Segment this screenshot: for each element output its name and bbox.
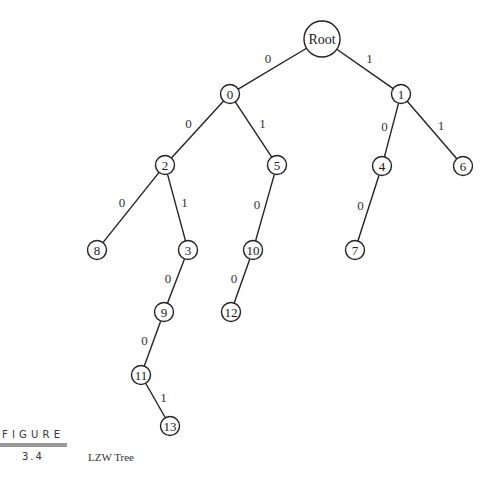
node-label: 8 bbox=[94, 243, 101, 258]
lzw-tree-diagram: 01010101000001 Root012546831079121113 bbox=[0, 0, 500, 481]
tree-edge bbox=[337, 49, 393, 88]
tree-edge bbox=[238, 48, 306, 89]
tree-node: 10 bbox=[244, 241, 263, 260]
node-label: 1 bbox=[398, 87, 405, 102]
node-label: 11 bbox=[135, 368, 148, 383]
node-label: Root bbox=[308, 32, 335, 47]
edge-bit-label: 0 bbox=[357, 198, 364, 213]
tree-node: 13 bbox=[161, 417, 180, 436]
edge-bit-label: 0 bbox=[265, 51, 272, 66]
node-label: 12 bbox=[225, 305, 238, 320]
tree-edge-labels: 01010101000001 bbox=[119, 51, 445, 405]
tree-node: 0 bbox=[221, 85, 240, 104]
node-label: 0 bbox=[227, 87, 234, 102]
node-label: 10 bbox=[247, 243, 260, 258]
tree-node: 12 bbox=[222, 303, 241, 322]
tree-root-node: Root bbox=[304, 21, 340, 57]
tree-edge bbox=[103, 172, 159, 242]
figure-number: 3.4 bbox=[22, 451, 44, 462]
edge-bit-label: 1 bbox=[438, 118, 445, 133]
tree-node: 7 bbox=[346, 241, 365, 260]
edge-bit-label: 0 bbox=[381, 119, 388, 134]
edge-bit-label: 0 bbox=[119, 195, 126, 210]
node-label: 13 bbox=[164, 419, 177, 434]
tree-node: 9 bbox=[155, 303, 174, 322]
tree-node: 3 bbox=[179, 241, 198, 260]
tree-node: 1 bbox=[392, 85, 411, 104]
node-label: 3 bbox=[185, 243, 192, 258]
tree-edge bbox=[235, 102, 272, 157]
node-label: 9 bbox=[161, 305, 168, 320]
edge-bit-label: 0 bbox=[165, 271, 172, 286]
edge-bit-label: 1 bbox=[259, 116, 266, 131]
edge-bit-label: 0 bbox=[254, 197, 261, 212]
tree-edge bbox=[407, 101, 457, 159]
edge-bit-label: 1 bbox=[160, 390, 167, 405]
tree-node: 6 bbox=[454, 157, 473, 176]
tree-node: 2 bbox=[156, 156, 175, 175]
node-label: 4 bbox=[379, 159, 386, 174]
node-label: 2 bbox=[162, 158, 169, 173]
node-label: 7 bbox=[352, 243, 359, 258]
edge-bit-label: 0 bbox=[231, 271, 238, 286]
edge-bit-label: 0 bbox=[185, 116, 192, 131]
edge-bit-label: 0 bbox=[141, 333, 148, 348]
figure-divider bbox=[0, 443, 67, 447]
tree-node: 4 bbox=[373, 157, 392, 176]
figure-caption: LZW Tree bbox=[88, 451, 134, 463]
edge-bit-label: 1 bbox=[366, 51, 373, 66]
figure-label: FIGURE bbox=[2, 429, 64, 440]
node-label: 5 bbox=[274, 158, 281, 173]
tree-nodes: Root012546831079121113 bbox=[88, 21, 473, 436]
tree-node: 8 bbox=[88, 241, 107, 260]
tree-node: 5 bbox=[268, 156, 287, 175]
edge-bit-label: 1 bbox=[181, 195, 188, 210]
node-label: 6 bbox=[460, 159, 467, 174]
tree-node: 11 bbox=[132, 366, 151, 385]
tree-edge bbox=[171, 101, 223, 158]
